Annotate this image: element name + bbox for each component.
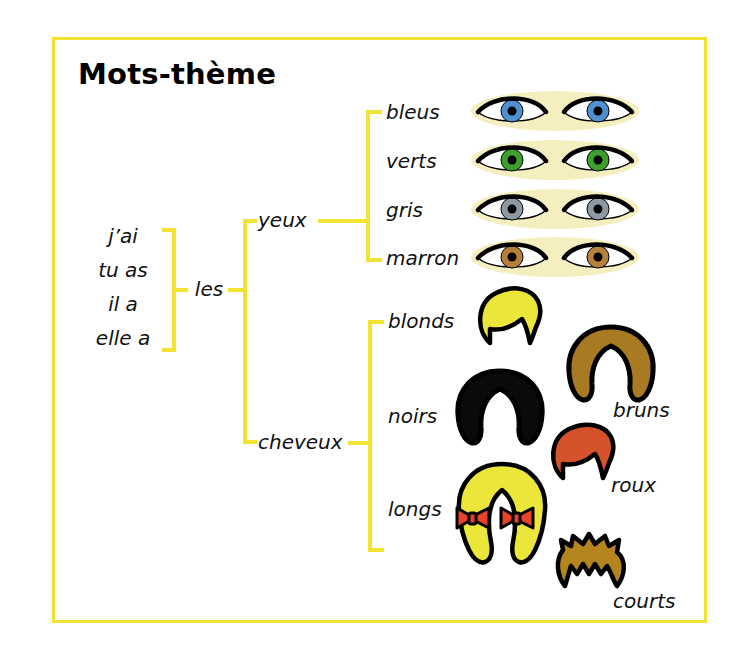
hair-brown-bob-illustration — [563, 322, 659, 406]
subject-il-a: il a — [78, 292, 168, 316]
eyes-grey-illustration — [470, 186, 640, 232]
determiner-les: les — [186, 277, 232, 301]
hair-black-bob-illustration — [452, 367, 548, 449]
subject-jai: j’ai — [78, 224, 168, 248]
yeux-color-bracket-spine — [366, 110, 370, 262]
eyes-blue-illustration — [470, 88, 640, 134]
hair-blond-pigtails-illustration — [447, 458, 557, 578]
eyes-green-illustration — [470, 137, 640, 183]
branch-label-cheveux: cheveux — [258, 430, 343, 454]
subject-tu-as: tu as — [78, 258, 168, 282]
cheveux-type-bracket-spine — [368, 320, 372, 552]
hair-blond-short-illustration — [470, 283, 550, 351]
page-title: Mots-thème — [78, 57, 276, 91]
worksheet-page: Mots-thème j’ai tu as il a elle a les ye… — [0, 0, 754, 657]
eye-color-label-bleus: bleus — [386, 100, 440, 124]
hair-label-longs: longs — [388, 497, 442, 521]
yeux-color-bracket-top-stub — [366, 110, 382, 114]
eye-color-label-gris: gris — [386, 198, 423, 222]
branch-label-yeux: yeux — [258, 208, 307, 232]
eye-color-label-marron: marron — [386, 246, 459, 270]
hair-label-noirs: noirs — [388, 404, 437, 428]
branch-bracket-yeux-stub — [243, 219, 257, 223]
eyes-brown-illustration — [470, 234, 640, 280]
yeux-to-colors-connector — [318, 219, 370, 223]
cheveux-type-bracket-top-stub — [368, 320, 384, 324]
yeux-color-bracket-bottom-stub — [366, 258, 382, 262]
subject-elle-a: elle a — [78, 326, 168, 350]
branch-bracket-cheveux-stub — [243, 440, 257, 444]
hair-label-blonds: blonds — [388, 309, 454, 333]
branch-bracket-spine — [243, 219, 247, 444]
subject-bracket-bottom-stub — [162, 348, 176, 352]
eye-color-label-verts: verts — [386, 149, 437, 173]
subject-bracket-top-stub — [162, 228, 176, 232]
hair-brown-spiky-illustration — [551, 528, 635, 598]
cheveux-type-bracket-bottom-stub — [368, 548, 384, 552]
